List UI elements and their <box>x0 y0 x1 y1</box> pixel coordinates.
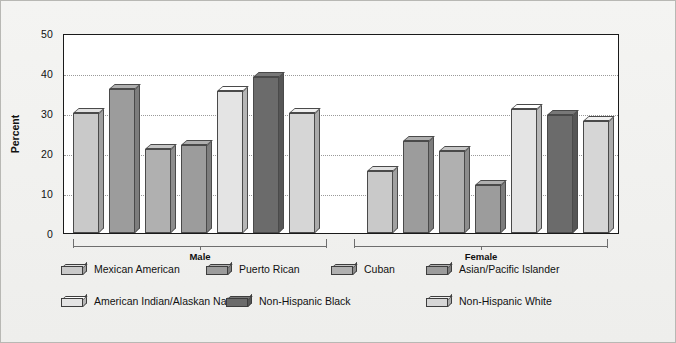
bar-face <box>403 141 429 233</box>
bar-face <box>475 185 501 233</box>
legend-swatch-icon <box>61 264 87 275</box>
bar-female-4 <box>511 109 537 233</box>
legend-label: Cuban <box>364 263 395 275</box>
bar-face <box>145 149 171 233</box>
bar-side <box>243 86 248 233</box>
legend-swatch-icon <box>226 296 252 307</box>
legend-swatch-icon <box>61 296 87 307</box>
bar-side <box>393 166 398 233</box>
bar-face <box>547 115 573 233</box>
legend-item-6[interactable]: Non-Hispanic White <box>426 295 552 307</box>
bar-face <box>367 171 393 233</box>
chart-figure: 50 40 30 20 10 0 Percent Male Female Mex… <box>0 0 676 343</box>
y-axis-label: Percent <box>9 115 21 154</box>
bar-face <box>439 151 465 233</box>
bar-side <box>279 72 284 233</box>
brace-female <box>354 239 608 248</box>
legend-label: Asian/Pacific Islander <box>459 263 559 275</box>
bar-side <box>465 146 470 233</box>
legend-swatch-icon <box>206 264 232 275</box>
bar-female-3 <box>475 185 501 233</box>
bar-face <box>583 121 609 233</box>
bar-male-6 <box>289 113 315 233</box>
bar-male-1 <box>109 89 135 233</box>
legend-swatch-icon <box>331 264 357 275</box>
bar-female-1 <box>403 141 429 233</box>
bar-side <box>171 144 176 233</box>
y-tick-50: 50 <box>13 28 53 40</box>
bar-side <box>501 180 506 233</box>
y-tick-10: 10 <box>13 188 53 200</box>
bar-face <box>289 113 315 233</box>
y-tick-40: 40 <box>13 68 53 80</box>
bar-face <box>181 145 207 233</box>
bar-male-4 <box>217 91 243 233</box>
bar-female-5 <box>547 115 573 233</box>
bar-side <box>429 136 434 233</box>
bar-face <box>217 91 243 233</box>
legend-item-5[interactable]: Non-Hispanic Black <box>226 295 351 307</box>
legend-item-3[interactable]: Asian/Pacific Islander <box>426 263 559 275</box>
legend-item-4[interactable]: American Indian/Alaskan Native <box>61 295 243 307</box>
bar-male-2 <box>145 149 171 233</box>
bar-face <box>511 109 537 233</box>
bar-face <box>253 77 279 233</box>
gridline-40 <box>64 75 618 76</box>
legend: Mexican AmericanPuerto RicanCubanAsian/P… <box>1 259 676 339</box>
legend-label: Non-Hispanic White <box>459 295 552 307</box>
bar-side <box>573 110 578 233</box>
bar-male-3 <box>181 145 207 233</box>
bar-side <box>99 108 104 233</box>
legend-label: Puerto Rican <box>239 263 300 275</box>
bar-female-2 <box>439 151 465 233</box>
legend-label: American Indian/Alaskan Native <box>94 295 243 307</box>
bar-side <box>135 84 140 233</box>
bar-female-6 <box>583 121 609 233</box>
bar-female-0 <box>367 171 393 233</box>
plot-area <box>63 34 619 234</box>
bar-side <box>207 140 212 233</box>
legend-item-0[interactable]: Mexican American <box>61 263 180 275</box>
bar-face <box>109 89 135 233</box>
bar-side <box>315 108 320 233</box>
bar-side <box>537 104 542 233</box>
legend-item-2[interactable]: Cuban <box>331 263 395 275</box>
legend-label: Mexican American <box>94 263 180 275</box>
legend-swatch-icon <box>426 264 452 275</box>
legend-swatch-icon <box>426 296 452 307</box>
y-tick-0: 0 <box>13 228 53 240</box>
bar-male-0 <box>73 113 99 233</box>
brace-male <box>73 239 327 248</box>
legend-label: Non-Hispanic Black <box>259 295 351 307</box>
bar-side <box>609 116 614 233</box>
bar-face <box>73 113 99 233</box>
legend-item-1[interactable]: Puerto Rican <box>206 263 300 275</box>
bar-male-5 <box>253 77 279 233</box>
